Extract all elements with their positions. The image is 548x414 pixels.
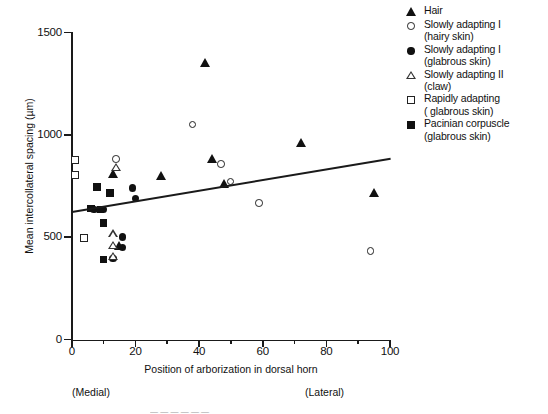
legend-label: Slowly adapting II(claw) [424, 68, 504, 93]
legend-item: Pacinian corpuscle(glabrous skin) [398, 117, 548, 142]
y-tick [64, 32, 72, 34]
data-point-triangle-open [108, 252, 118, 260]
square-open-icon [407, 96, 415, 104]
legend-item: Slowly adapting I(hairy skin) [398, 18, 548, 43]
data-point-square-filled [100, 219, 108, 227]
circle-filled-icon [407, 47, 414, 54]
x-tick-label: 100 [370, 345, 410, 357]
lateral-annotation: (Lateral) [305, 386, 344, 398]
data-point-square-filled [100, 256, 108, 264]
legend-label: Hair [424, 4, 443, 16]
triangle-filled-icon [406, 7, 416, 16]
legend-square-open-icon [398, 92, 424, 106]
data-point-triangle-filled [207, 154, 217, 163]
legend-circle-open-icon [398, 18, 424, 32]
y-tick [64, 134, 72, 136]
data-point-circle-open [189, 121, 197, 129]
data-point-circle-open [255, 199, 263, 207]
x-tick-label: 20 [115, 345, 155, 357]
data-point-circle-open [367, 247, 375, 255]
figure: 050010001500 020406080100 Mean intercoll… [0, 0, 548, 414]
data-point-circle-open [217, 160, 225, 168]
x-tick-label: 40 [179, 345, 219, 357]
x-tick-label: 0 [52, 345, 92, 357]
data-point-square-filled [93, 183, 101, 191]
legend-circle-filled-icon [398, 43, 424, 57]
x-tick-label: 80 [306, 345, 346, 357]
legend-label: Rapidly adapting( glabrous skin) [424, 92, 500, 117]
legend-label-line1: Slowly adapting I [424, 43, 501, 55]
x-tick-minor [357, 340, 359, 344]
legend-label-line2: (glabrous skin) [424, 55, 501, 67]
x-tick-minor [103, 340, 105, 344]
legend-item: Slowly adapting I(glabrous skin) [398, 43, 548, 68]
data-point-triangle-filled [200, 58, 210, 67]
legend-label-line2: (hairy skin) [424, 30, 501, 42]
x-axis-title: Position of arborization in dorsal horn [71, 363, 391, 375]
data-point-square-open [71, 156, 79, 164]
legend-label-line1: Slowly adapting I [424, 18, 501, 30]
legend-triangle-open-icon [398, 68, 424, 82]
legend-item: Slowly adapting II(claw) [398, 68, 548, 93]
legend-item: Hair [398, 4, 548, 18]
x-tick-minor [294, 340, 296, 344]
data-point-square-filled [106, 189, 114, 197]
data-point-triangle-filled [156, 171, 166, 180]
data-point-circle-filled [119, 244, 126, 251]
data-point-square-open [80, 234, 88, 242]
data-point-triangle-open [111, 163, 121, 171]
circle-open-icon [407, 22, 415, 30]
legend-square-filled-icon [398, 117, 424, 131]
triangle-open-icon [406, 71, 416, 79]
y-axis-line [71, 32, 73, 341]
y-tick-label: 1500 [26, 26, 62, 38]
legend-label: Slowly adapting I(hairy skin) [424, 18, 501, 43]
legend-triangle-filled-icon [398, 4, 424, 18]
y-tick-label: 0 [26, 333, 62, 345]
data-point-circle-open [112, 155, 120, 163]
data-point-circle-filled [119, 233, 126, 240]
x-tick-minor [166, 340, 168, 344]
legend-label: Slowly adapting I(glabrous skin) [424, 43, 501, 68]
data-point-circle-filled [129, 184, 136, 191]
medial-annotation: (Medial) [72, 386, 110, 398]
data-point-triangle-open [108, 229, 118, 237]
data-point-triangle-filled [296, 138, 306, 147]
legend-label-line1: Hair [424, 4, 443, 16]
x-tick-label: 60 [243, 345, 283, 357]
legend-label-line2: (claw) [424, 80, 504, 92]
legend-label-line2: (glabrous skin) [424, 130, 509, 142]
figure-caption: — — — — — — [150, 407, 548, 414]
data-point-triangle-filled [369, 188, 379, 197]
legend-label-line2: ( glabrous skin) [424, 105, 500, 117]
legend-label-line1: Pacinian corpuscle [424, 117, 509, 129]
legend-label: Pacinian corpuscle(glabrous skin) [424, 117, 509, 142]
data-point-triangle-open [108, 241, 118, 249]
data-point-square-open [71, 171, 79, 179]
legend-label-line1: Rapidly adapting [424, 92, 500, 104]
x-tick-minor [230, 340, 232, 344]
legend-label-line1: Slowly adapting II [424, 68, 504, 80]
y-tick [64, 236, 72, 238]
legend-item: Rapidly adapting( glabrous skin) [398, 92, 548, 117]
legend: HairSlowly adapting I(hairy skin)Slowly … [398, 4, 548, 142]
square-filled-icon [407, 121, 415, 129]
y-axis-title: Mean intercollateral spacing (µm) [23, 76, 35, 276]
